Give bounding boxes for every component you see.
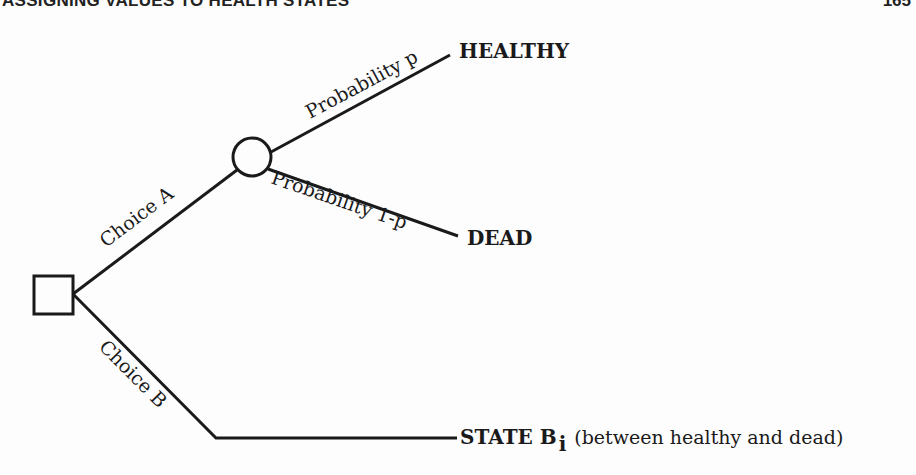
choice-b-label: Choice B <box>95 335 172 412</box>
decision-node-square <box>34 276 73 314</box>
probability-1-p-label: Probability 1-p <box>269 166 411 233</box>
outcome-state-b: STATE Bi(between healthy and dead) <box>460 425 843 456</box>
choice-a-label: Choice A <box>95 182 177 251</box>
state-b-note: (between healthy and dead) <box>574 426 843 448</box>
outcome-healthy: HEALTHY <box>459 39 570 63</box>
branch-probability-p <box>271 55 450 152</box>
chance-node-circle <box>233 138 271 176</box>
state-b-subscript: i <box>559 432 567 456</box>
decision-tree: Choice A Choice B Probability p Probabil… <box>0 0 916 475</box>
probability-p-label: Probability p <box>302 45 422 123</box>
outcome-dead: DEAD <box>467 226 532 250</box>
state-b-label: STATE B <box>460 425 557 449</box>
